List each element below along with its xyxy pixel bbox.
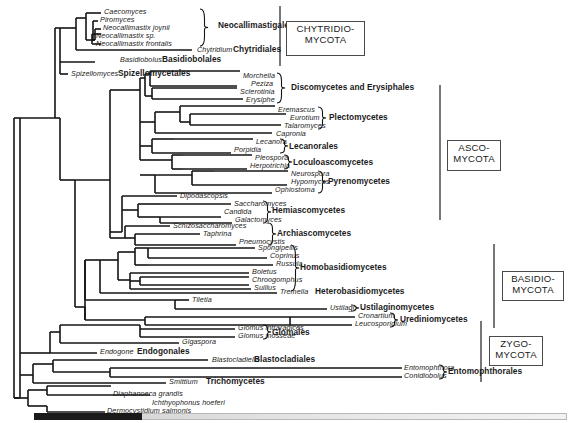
group-label: Trichomycetes — [206, 377, 265, 385]
group-label: Discomycetes and Erysiphales — [291, 83, 414, 91]
phylum-box-line: MYCOTA — [448, 154, 500, 165]
taxon-label: Spizellomyces — [71, 70, 118, 77]
taxon-label: Dipodascopsis — [180, 192, 228, 199]
group-label: Archiascomycetes — [277, 229, 351, 237]
group-label: Entomophthorales — [448, 367, 522, 375]
taxon-label: Endogone — [100, 348, 134, 355]
taxon-label: Gigaspora — [182, 338, 216, 345]
taxon-label: Basidiobolus — [120, 56, 162, 63]
phylum-box: ASCO-MYCOTA — [447, 140, 501, 171]
group-brace — [277, 73, 285, 103]
taxon-label: Ophiostoma — [275, 186, 315, 193]
group-label: Pyrenomycetes — [328, 177, 390, 185]
group-label: Urediniomycetes — [400, 315, 468, 323]
group-label: Glomales — [272, 328, 310, 336]
phylum-box: BASIDIO-MYCOTA — [502, 271, 564, 301]
taxon-label: Neocallimastix frontalis — [96, 40, 172, 47]
taxon-label: Herpotrichia — [250, 162, 290, 169]
group-label: Chytridiales — [233, 45, 281, 53]
taxon-label: Blastocladiella — [212, 356, 259, 363]
group-label: Neocallimastigales — [218, 21, 294, 29]
taxon-label: Erysiphe — [246, 96, 275, 103]
taxon-label: Diaphanoeca grandis — [113, 390, 183, 397]
group-label: Loculoascomycetes — [293, 158, 373, 166]
group-label: Ustilaginomycetes — [360, 303, 434, 311]
taxon-label: Ustilago — [330, 304, 357, 311]
group-label: Plectomycetes — [329, 113, 388, 121]
group-label: Blastocladiales — [254, 355, 315, 363]
taxon-label: Tiletia — [192, 296, 212, 303]
taxon-label: Suillus — [254, 284, 276, 291]
phylum-box-line: MYCOTA — [490, 350, 542, 361]
taxon-label: Taphrina — [203, 230, 232, 237]
phylum-box: CHYTRIDIO-MYCOTA — [286, 21, 365, 56]
group-label: Heterobasidiomycetes — [315, 287, 405, 295]
group-label: Basidiobolales — [162, 55, 221, 63]
taxon-label: Tremella — [280, 288, 308, 295]
taxon-label: Conidiobolus — [404, 372, 447, 379]
phylum-box-line: MYCOTA — [503, 285, 563, 296]
phylum-box-line: MYCOTA — [287, 35, 364, 46]
group-label: Lecanorales — [289, 142, 338, 150]
taxon-label: Smittium — [169, 378, 198, 385]
phylum-box: ZYGO-MYCOTA — [489, 336, 543, 366]
group-brace — [200, 9, 208, 46]
taxon-label: Chytridium — [197, 46, 232, 53]
figure-canvas: CaecomycesPiromycesNeocallimastix joynii… — [0, 0, 577, 423]
group-label: Hemiascomycetes — [272, 206, 345, 214]
group-label: Spizellomycetales — [118, 69, 190, 77]
horizontal-scroll-thumb[interactable] — [34, 413, 142, 420]
group-label: Homobasidiomycetes — [300, 263, 387, 271]
taxon-label: Russula — [276, 260, 303, 267]
group-label: Endogonales — [137, 347, 190, 355]
